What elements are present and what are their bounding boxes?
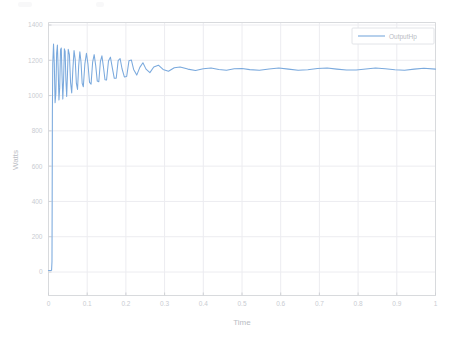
x-tick-label: 0.6 [276, 300, 285, 307]
y-tick-label: 1000 [28, 92, 43, 99]
y-tick-label: 0 [39, 268, 43, 275]
y-axis-title: Watts [11, 150, 20, 170]
x-axis-title: Time [233, 318, 251, 327]
y-tick-label: 600 [32, 163, 43, 170]
chart-screenshot: 0200400600800100012001400 00.10.20.30.40… [0, 0, 456, 337]
x-tick-label: 0.9 [392, 300, 401, 307]
x-tick-label: 0.8 [354, 300, 363, 307]
y-tick-label: 400 [32, 198, 43, 205]
y-tick-label: 200 [32, 233, 43, 240]
line-chart: 0200400600800100012001400 00.10.20.30.40… [0, 0, 456, 337]
x-tick-label: 0.5 [237, 300, 246, 307]
y-axis-tick-labels: 0200400600800100012001400 [28, 21, 43, 275]
legend[interactable]: OutputHp [352, 28, 434, 44]
grid-lines [49, 23, 436, 296]
x-axis-tick-labels: 00.10.20.30.40.50.60.70.80.91 [47, 300, 438, 307]
legend-label-outputhp: OutputHp [389, 33, 417, 41]
plot-container: 0200400600800100012001400 00.10.20.30.40… [0, 0, 456, 337]
y-tick-label: 1200 [28, 57, 43, 64]
x-tick-label: 0 [47, 300, 51, 307]
x-tick-label: 1 [434, 300, 438, 307]
y-tick-label: 1400 [28, 21, 43, 28]
x-tick-label: 0.1 [83, 300, 92, 307]
x-tick-label: 0.2 [121, 300, 130, 307]
x-tick-label: 0.3 [160, 300, 169, 307]
y-tick-label: 800 [32, 127, 43, 134]
x-tick-label: 0.4 [199, 300, 208, 307]
x-tick-label: 0.7 [315, 300, 324, 307]
